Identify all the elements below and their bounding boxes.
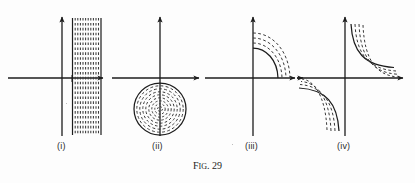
panel-label-iv: (iv): [337, 141, 350, 151]
scan-speck: [66, 103, 67, 104]
panel-ii-graph: [112, 17, 199, 136]
panel-label-i: (i): [57, 141, 66, 151]
panel-i-graph: [8, 17, 103, 136]
panel-label-ii: (ii): [152, 141, 163, 151]
figure-page: (i) (ii) (iii) (iv) FIG. 29: [0, 0, 415, 183]
panel-ii-axes: [112, 17, 199, 136]
panel-iii-graph: [205, 17, 295, 136]
panel-iv-graph: [297, 17, 403, 136]
panel-label-iii: (iii): [245, 141, 258, 151]
scan-speck: [232, 144, 233, 145]
panel-iii-curve-family: [253, 33, 290, 78]
panel-iv-axes: [297, 17, 403, 136]
caption-number: . 29: [207, 160, 222, 171]
figure-canvas: [0, 0, 415, 183]
caption-small-caps: IG: [199, 162, 207, 171]
figure-caption: FIG. 29: [0, 160, 415, 171]
panel-iv-branch-quadrant-3: [299, 79, 339, 131]
panel-iv-branch-quadrant-1: [351, 24, 398, 77]
panel-i-curve-family: [73, 18, 102, 135]
panel-i-axes: [8, 17, 103, 136]
